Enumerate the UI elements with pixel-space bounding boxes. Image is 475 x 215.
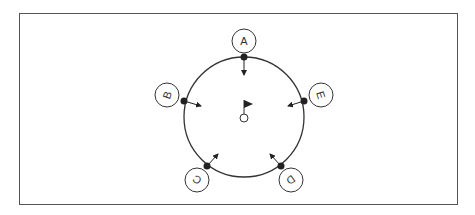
- hole-icon: [240, 114, 248, 122]
- position-dot: [204, 163, 211, 170]
- player-b: B: [155, 83, 201, 107]
- position-dot: [301, 98, 308, 105]
- player-a: A: [232, 29, 256, 75]
- flag-icon: [240, 100, 253, 122]
- position-dot: [278, 163, 285, 170]
- position-dot: [241, 54, 248, 61]
- position-dot: [181, 98, 188, 105]
- player-label: A: [240, 35, 248, 47]
- player-e: E: [288, 83, 333, 107]
- circle-diagram: ABCDE: [0, 0, 475, 215]
